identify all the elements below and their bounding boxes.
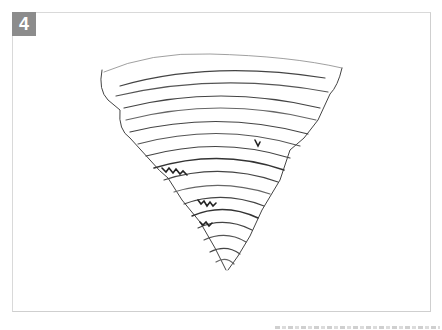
- watermark-text: [275, 324, 440, 330]
- step-number-badge: 4: [12, 12, 36, 36]
- tornado-sketch: [90, 50, 360, 280]
